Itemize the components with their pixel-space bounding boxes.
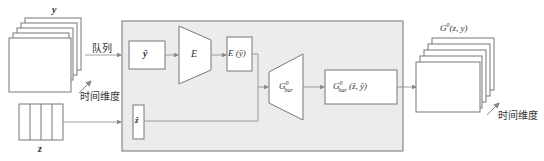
output-stack [416,38,494,112]
yhat-label: ŷ [143,48,147,59]
input-z-bars [19,104,63,140]
input-z-label: z [38,143,42,154]
time-dim-label-right: 时间维度 [498,107,538,122]
encoded-label: E (ŷ) [228,48,246,58]
queue-label: 队列 [92,40,112,55]
output-label: G0(z, y) [440,22,468,33]
input-y-stack [9,18,81,92]
time-dim-label-left: 时间维度 [80,88,120,103]
generator-label: G0bar [279,80,293,93]
input-y-label: y [52,4,56,15]
gen-output-label: G0bar (ẑ, ŷ) [333,80,367,93]
zhat-label: ẑ [135,115,139,125]
encoder-label: E [191,48,197,59]
